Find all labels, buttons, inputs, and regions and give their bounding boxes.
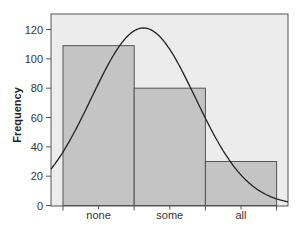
y-tick-label: 120	[25, 24, 43, 36]
x-tick-label-all: all	[235, 209, 246, 221]
y-tick-label: 40	[31, 141, 43, 153]
y-tick-label: 0	[37, 200, 43, 212]
y-tick-label: 20	[31, 170, 43, 182]
histogram-chart: 020406080100120 nonesomeall Frequency	[0, 0, 301, 233]
x-tick-label-none: none	[86, 209, 110, 221]
x-axis: nonesomeall	[63, 206, 277, 222]
y-tick-label: 100	[25, 53, 43, 65]
bar-all	[205, 162, 276, 206]
y-axis-label: Frequency	[11, 86, 23, 143]
bar-none	[63, 46, 134, 206]
bar-some	[134, 88, 205, 205]
x-tick-label-some: some	[156, 209, 183, 221]
y-axis: 020406080100120	[25, 24, 51, 212]
y-tick-label: 60	[31, 112, 43, 124]
y-tick-label: 80	[31, 82, 43, 94]
